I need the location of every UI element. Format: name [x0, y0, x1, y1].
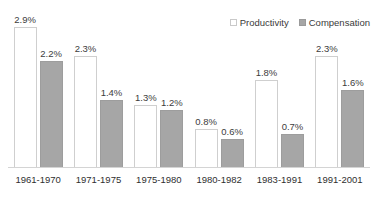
bar-value-label: 0.8% — [195, 117, 217, 127]
bar-group: 1.3%1.2% — [129, 12, 189, 168]
bar-value-label: 2.2% — [40, 49, 62, 59]
bar-compensation[interactable] — [160, 110, 183, 168]
bar-value-label: 1.8% — [256, 68, 278, 78]
bar-productivity[interactable] — [134, 105, 157, 168]
bar-productivity[interactable] — [14, 27, 37, 168]
bar-compensation[interactable] — [221, 139, 244, 168]
bar-value-label: 2.3% — [316, 44, 338, 54]
bar-compensation[interactable] — [40, 61, 63, 168]
bar-value-label: 1.4% — [101, 88, 123, 98]
category-label: 1975-1980 — [129, 174, 189, 185]
plot-area: 2.9%2.2%2.3%1.4%1.3%1.2%0.8%0.6%1.8%0.7%… — [8, 12, 370, 168]
bar-slot: 2.9% — [14, 12, 37, 168]
category-label: 1980-1982 — [189, 174, 249, 185]
bar-slot: 1.8% — [255, 12, 278, 168]
bar-slot: 1.4% — [100, 12, 123, 168]
bar-value-label: 2.9% — [14, 15, 36, 25]
bar-group: 2.3%1.4% — [68, 12, 128, 168]
bar-slot: 2.3% — [74, 12, 97, 168]
category-label: 1971-1975 — [68, 174, 128, 185]
bar-value-label: 1.6% — [342, 78, 364, 88]
bar-group: 2.3%1.6% — [310, 12, 370, 168]
bar-productivity[interactable] — [195, 129, 218, 168]
bar-compensation[interactable] — [281, 134, 304, 168]
bar-value-label: 1.3% — [135, 93, 157, 103]
bar-compensation[interactable] — [341, 90, 364, 168]
bar-compensation[interactable] — [100, 100, 123, 168]
bar-value-label: 0.6% — [221, 127, 243, 137]
bar-slot: 2.3% — [315, 12, 338, 168]
bar-productivity[interactable] — [255, 80, 278, 168]
bar-slot: 0.8% — [195, 12, 218, 168]
category-label: 1991-2001 — [310, 174, 370, 185]
bar-group: 0.8%0.6% — [189, 12, 249, 168]
axis-baseline — [8, 167, 370, 168]
bar-productivity[interactable] — [315, 56, 338, 168]
bar-value-label: 2.3% — [75, 44, 97, 54]
bar-value-label: 1.2% — [161, 98, 183, 108]
bar-productivity[interactable] — [74, 56, 97, 168]
bar-slot: 1.6% — [341, 12, 364, 168]
bar-slot: 0.6% — [221, 12, 244, 168]
bar-slot: 1.3% — [134, 12, 157, 168]
category-axis: 1961-19701971-19751975-19801980-19821983… — [8, 174, 370, 190]
bar-slot: 0.7% — [281, 12, 304, 168]
category-label: 1983-1991 — [249, 174, 309, 185]
bar-group: 2.9%2.2% — [8, 12, 68, 168]
category-label: 1961-1970 — [8, 174, 68, 185]
bar-group: 1.8%0.7% — [249, 12, 309, 168]
bar-chart: Productivity Compensation 2.9%2.2%2.3%1.… — [0, 0, 378, 200]
bar-slot: 2.2% — [40, 12, 63, 168]
bar-value-label: 0.7% — [282, 122, 304, 132]
bar-slot: 1.2% — [160, 12, 183, 168]
